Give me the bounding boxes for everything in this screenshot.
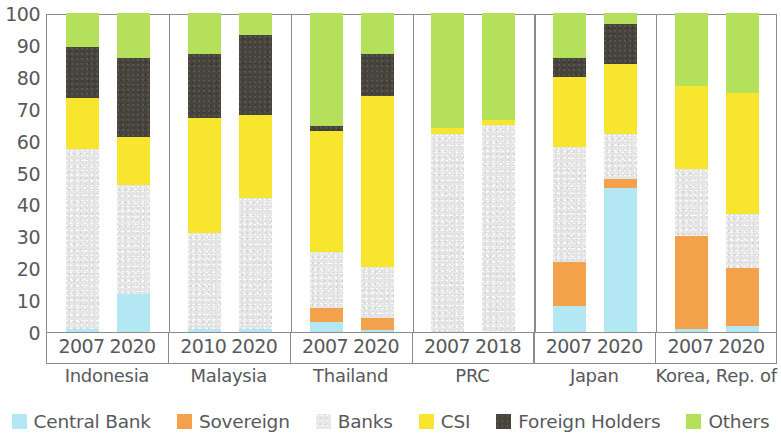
legend: Central BankSovereignBanksCSIForeign Hol… [0,406,781,437]
x-axis-category-label: Indonesia [46,365,168,386]
x-axis-year-label: 2018 [472,335,523,357]
legend-label: Central Bank [34,411,151,432]
x-axis-divider [655,333,656,363]
bar-segment-csi [361,96,394,267]
bar-segment-central [66,329,99,332]
bar-indonesia-2007[interactable] [66,15,99,332]
y-axis-tick-30: 30 [17,226,40,248]
bar-segment-central [361,330,394,332]
bar-segment-banks [188,233,221,329]
bar-segment-foreign [310,126,343,131]
legend-item-others[interactable]: Others [686,411,769,432]
bar-segment-others [239,13,272,35]
bar-segment-others [117,13,150,58]
bar-japan-2007[interactable] [553,15,586,332]
x-axis-group-prc: 20072018PRC [412,333,534,403]
plot-area [46,14,777,333]
bar-segment-foreign [553,58,586,77]
bar-segment-foreign [239,35,272,115]
x-axis-group-indonesia: 20072020Indonesia [46,333,168,403]
legend-item-central[interactable]: Central Bank [12,411,151,432]
bar-segment-banks [117,185,150,293]
bar-segment-foreign [604,24,637,64]
bar-indonesia-2020[interactable] [117,15,150,332]
bar-thailand-2007[interactable] [310,15,343,332]
bar-korea-rep-of-2020[interactable] [726,15,759,332]
group-divider [169,15,170,332]
group-divider [291,15,292,332]
bar-group-korea-rep-of [656,15,778,332]
x-axis-category-label: Thailand [290,365,412,386]
x-axis-divider [776,333,777,363]
bar-segment-others [361,13,394,54]
bar-segment-sovereign [726,268,759,325]
y-axis-tick-50: 50 [17,163,40,185]
bar-segment-sovereign [310,308,343,322]
bar-segment-csi [117,137,150,185]
bar-segment-foreign [361,54,394,95]
bar-segment-csi [482,120,515,125]
bar-group-malaysia [169,15,291,332]
x-axis-year-label: 2010 [178,335,229,357]
legend-item-sovereign[interactable]: Sovereign [177,411,290,432]
x-axis-year-label: 2007 [421,335,472,357]
bar-korea-rep-of-2007[interactable] [675,15,708,332]
bar-thailand-2020[interactable] [361,15,394,332]
x-axis-year-label: 2020 [229,335,280,357]
x-axis-year-label: 2007 [665,335,716,357]
bar-segment-central [310,322,343,332]
bar-group-japan [534,15,656,332]
bar-segment-csi [239,115,272,198]
legend-label: CSI [441,411,471,432]
bar-group-indonesia [47,15,169,332]
bar-malaysia-2020[interactable] [239,15,272,332]
legend-item-csi[interactable]: CSI [419,411,471,432]
bar-segment-central [553,306,586,332]
legend-item-foreign[interactable]: Foreign Holders [496,411,660,432]
x-axis-category-label: Malaysia [168,365,290,386]
bar-prc-2018[interactable] [482,15,515,332]
bar-japan-2020[interactable] [604,15,637,332]
bar-segment-others [431,13,464,128]
bar-segment-others [675,13,708,86]
bar-segment-banks [604,134,637,179]
legend-item-banks[interactable]: Banks [316,411,393,432]
x-axis-year-label: 2007 [300,335,351,357]
legend-swatch-sovereign-icon [177,414,192,429]
bar-segment-others [310,13,343,126]
bar-segment-others [604,13,637,24]
bar-segment-sovereign [553,262,586,307]
bar-group-prc [413,15,535,332]
chart-root: 1009080706050403020100 20072020Indonesia… [0,0,781,437]
bar-segment-central [675,329,708,332]
legend-swatch-central-icon [12,414,27,429]
y-axis-tick-40: 40 [17,194,40,216]
x-axis-group-malaysia: 20102020Malaysia [168,333,290,403]
legend-swatch-foreign-icon [496,414,511,429]
bar-segment-csi [726,93,759,214]
y-axis-tick-90: 90 [17,35,40,57]
x-axis: 20072020Indonesia20102020Malaysia2007202… [46,333,777,403]
bar-segment-central [239,329,272,332]
bar-segment-foreign [66,47,99,98]
bar-segment-others [188,13,221,54]
bar-segment-banks [482,125,515,332]
bar-prc-2007[interactable] [431,15,464,332]
bar-malaysia-2010[interactable] [188,15,221,332]
group-divider [413,15,414,332]
bar-segment-central [188,329,221,332]
x-axis-year-label: 2020 [716,335,767,357]
x-axis-group-korea-rep-of: 20072020Korea, Rep. of [655,333,777,403]
x-axis-divider [290,333,291,363]
x-axis-year-label: 2020 [107,335,158,357]
bar-segment-csi [553,77,586,147]
bar-segment-banks [66,149,99,329]
x-axis-divider [46,333,47,363]
bar-segment-banks [675,169,708,236]
bar-segment-csi [310,131,343,252]
bar-segment-banks [726,214,759,268]
x-axis-divider [533,333,534,363]
legend-swatch-banks-icon [316,414,331,429]
bar-segment-sovereign [604,179,637,189]
legend-label: Sovereign [199,411,290,432]
